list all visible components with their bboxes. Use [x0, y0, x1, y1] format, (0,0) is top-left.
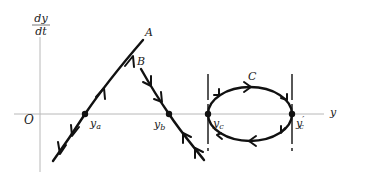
phase-diagram: dy dt O y A ya B yb — [0, 0, 392, 178]
equilibrium-point-yc — [205, 111, 211, 117]
trajectory-a-label: A — [144, 26, 153, 39]
equilibrium-point-yc-prime — [289, 111, 295, 117]
arrow-icon — [217, 133, 222, 139]
y-axis-label-denominator: dt — [35, 25, 47, 38]
equilibrium-label-ya: ya — [89, 117, 101, 131]
equilibrium-point-ya — [82, 111, 88, 117]
trajectory-a: A ya — [53, 26, 153, 161]
equilibrium-label-yb: yb — [153, 118, 165, 132]
equilibrium-point-yb — [166, 111, 172, 117]
trajectory-b-label: B — [136, 55, 145, 68]
y-axis-label-numerator: dy — [34, 12, 48, 25]
origin-label: O — [24, 113, 34, 127]
trajectory-a-curve — [53, 40, 143, 161]
equilibrium-label-yc-prime: y′c — [295, 115, 304, 131]
arrow-icon — [281, 126, 285, 133]
arrow-icon — [214, 89, 219, 95]
x-axis-label: y — [329, 106, 337, 119]
trajectory-c: C yc y′c — [205, 70, 304, 151]
equilibrium-label-yc: yc — [212, 117, 224, 131]
trajectory-b: B yb — [136, 55, 204, 160]
trajectory-c-label: C — [248, 70, 257, 83]
